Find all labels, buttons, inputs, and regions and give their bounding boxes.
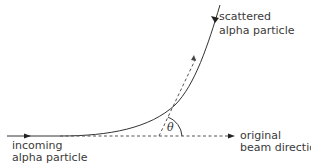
incoming-arrow-icon: [24, 134, 31, 139]
alpha-trajectory: [7, 5, 220, 136]
incoming-label-line2: alpha particle: [12, 152, 87, 164]
scattering-diagram: θ scattered alpha particle original beam…: [0, 0, 311, 164]
original-label-line2: beam direction: [240, 142, 311, 154]
scattered-label-line1: scattered: [219, 11, 294, 23]
scattered-label: scattered alpha particle: [219, 11, 294, 37]
beam-arrow-icon: [228, 134, 235, 139]
angle-theta-label: θ: [167, 121, 174, 134]
original-beam-label: original beam direction: [240, 130, 311, 154]
incoming-label: incoming alpha particle: [12, 140, 87, 164]
scattered-label-line2: alpha particle: [219, 25, 294, 37]
scattered-arrow-icon: [211, 16, 219, 23]
